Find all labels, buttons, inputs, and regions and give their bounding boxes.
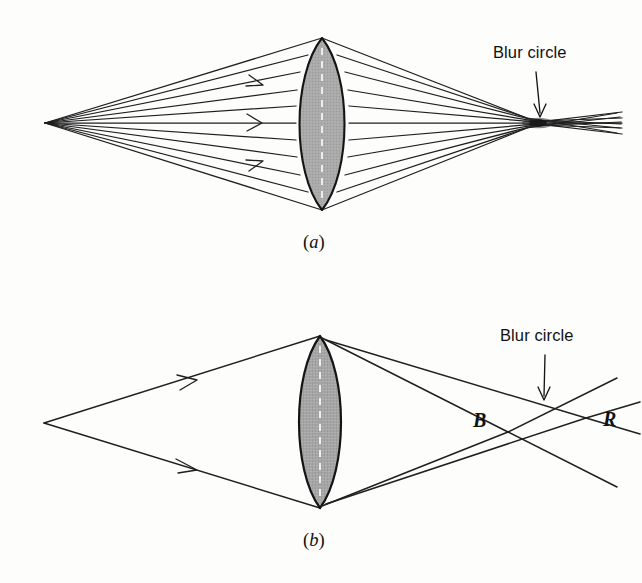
- panel-b-caption-close: ): [318, 530, 324, 550]
- panel-a-group: [45, 38, 622, 210]
- panel-a-outgoing-rays: [322, 38, 622, 210]
- panel-b-incoming-arrowheads: [176, 375, 197, 473]
- ray-blue-upper: [322, 338, 617, 487]
- blur-circle-leader-b: [538, 355, 550, 400]
- blur-circle-label-b: Blur circle: [500, 327, 574, 344]
- ray-diagram-svg: [0, 0, 642, 583]
- panel-b-group: [44, 336, 640, 508]
- blue-focus-label: B: [473, 410, 486, 430]
- panel-a-caption-close: ): [318, 232, 324, 252]
- panel-a-incoming-rays: [45, 38, 322, 210]
- ray-blue-lower: [322, 378, 617, 506]
- optics-figure: Blur circle (a) Blur circle B R (b): [0, 0, 642, 583]
- blur-circle-leader-a: [534, 72, 546, 117]
- panel-b-caption: (b): [303, 531, 325, 550]
- panel-a-caption: (a): [303, 233, 325, 252]
- red-focus-label: R: [603, 409, 616, 429]
- blur-circle-label-a: Blur circle: [493, 44, 567, 61]
- blur-circle-spot-a: [522, 118, 554, 128]
- panel-b-incoming-rays: [44, 336, 320, 508]
